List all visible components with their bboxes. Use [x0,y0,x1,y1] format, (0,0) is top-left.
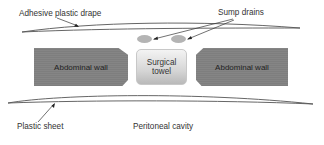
surgical-towel: Surgical towel [136,49,187,85]
surgical-towel-label-line2: towel [152,67,171,76]
adhesive-drape-shape [22,23,300,32]
drain-arrowhead-icon-1 [153,37,158,40]
plastic-sheet-arrow [38,104,54,122]
sump-drain-1 [137,35,152,43]
abdominal-wall-right: Abdominal wall [196,48,288,86]
plastic-sheet-arrowhead-icon [52,103,56,108]
surgical-towel-label-line1: Surgical [147,58,177,67]
drape-arrow [57,18,78,26]
peritoneal-cavity-label: Peritoneal cavity [133,123,193,131]
drape-arrowhead-icon [74,24,79,27]
sump-drain-2 [171,35,186,43]
diagram-canvas: Adhesive plastic drape Sump drains Abdom… [0,0,324,145]
abdominal-wall-right-label: Abdominal wall [215,63,269,72]
drain-arrowhead-icon-2 [187,36,192,40]
abdominal-wall-left: Abdominal wall [34,48,128,86]
plastic-sheet-label: Plastic sheet [17,123,63,131]
plastic-sheet-shape [8,96,313,104]
adhesive-drape-label: Adhesive plastic drape [19,10,101,18]
sump-drains-label: Sump drains [218,9,264,17]
abdominal-wall-left-label: Abdominal wall [54,63,108,72]
